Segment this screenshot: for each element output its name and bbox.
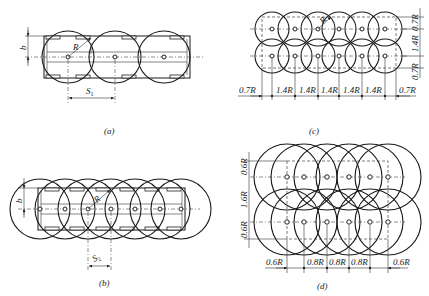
well-point: [38, 207, 42, 211]
svg-text:0.7R: 0.7R: [239, 85, 256, 95]
panel-c: R 0.7R 1.4R 1.4R 1.4R 1.4R 1.4R: [238, 8, 424, 136]
svg-text:0.8R: 0.8R: [329, 257, 346, 267]
panel-b: R b S2 (b): [10, 178, 211, 288]
caption-b: (b): [99, 278, 110, 288]
svg-text:0.6R: 0.6R: [239, 158, 249, 175]
well-point: [158, 207, 162, 211]
svg-text:0.6R: 0.6R: [393, 257, 410, 267]
svg-text:0.7R: 0.7R: [410, 63, 420, 80]
svg-text:0.7R: 0.7R: [410, 14, 420, 31]
caption-c: (c): [309, 126, 319, 136]
side-dim-labels: 0.7R 1.4R 0.7R: [410, 14, 420, 80]
width-label: b: [14, 198, 24, 203]
panel-d: 0.6R 1.6R 0.6R 0.6R 0.8R 0.8R 0.8R 0.6R …: [239, 144, 421, 291]
svg-text:0.8R: 0.8R: [351, 257, 368, 267]
panel-a: R b S1 (a): [18, 27, 205, 136]
svg-text:0.6R: 0.6R: [266, 257, 283, 267]
well-point: [162, 55, 166, 59]
radius-label: R: [317, 14, 329, 26]
radius-arrow: [68, 38, 91, 57]
svg-text:0.8R: 0.8R: [307, 257, 324, 267]
radius-label: R: [91, 193, 103, 205]
radius-label: R: [72, 42, 79, 52]
svg-text:1.4R: 1.4R: [276, 85, 293, 95]
svg-text:1.4R: 1.4R: [343, 85, 360, 95]
spacing-label: S1: [86, 86, 94, 97]
well-point: [63, 207, 67, 211]
well-point: [109, 207, 113, 211]
well-point: [113, 55, 117, 59]
svg-text:1.6R: 1.6R: [239, 191, 249, 208]
width-label: b: [18, 45, 28, 50]
side-dim-labels: 0.6R 1.6R 0.6R: [239, 158, 249, 238]
bottom-dim-labels: 0.7R 1.4R 1.4R 1.4R 1.4R 1.4R 0.7R: [239, 85, 416, 95]
svg-text:1.4R: 1.4R: [321, 85, 338, 95]
spacing-label: S2: [90, 251, 102, 264]
svg-text:0.7R: 0.7R: [399, 85, 416, 95]
caption-d: (d): [317, 281, 328, 291]
well-layout-diagram: R b S1 (a): [0, 0, 429, 296]
bottom-dim-labels: 0.6R 0.8R 0.8R 0.8R 0.6R: [266, 257, 410, 267]
well-point: [179, 207, 183, 211]
svg-text:1.4R: 1.4R: [299, 85, 316, 95]
svg-text:1.4R: 1.4R: [365, 85, 382, 95]
svg-text:1.4R: 1.4R: [410, 35, 420, 52]
well-point: [133, 207, 137, 211]
caption-a: (a): [104, 126, 115, 136]
svg-text:0.6R: 0.6R: [239, 221, 249, 238]
